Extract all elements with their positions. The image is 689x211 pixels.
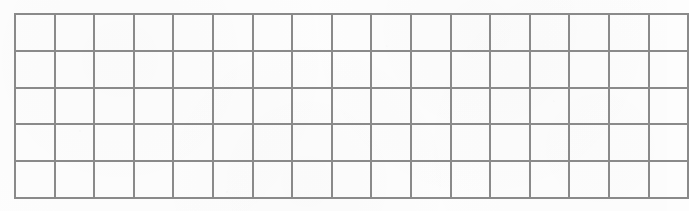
table-cell[interactable] [15,161,55,198]
table-cell[interactable] [411,88,451,125]
table-cell[interactable] [292,14,332,51]
table-cell[interactable] [94,51,134,88]
table-cell[interactable] [173,161,213,198]
table-cell[interactable] [490,124,530,161]
table-cell[interactable] [490,51,530,88]
table-cell[interactable] [213,51,253,88]
table-row [15,88,688,125]
table-cell[interactable] [55,161,95,198]
table-cell[interactable] [55,14,95,51]
table-cell[interactable] [530,124,570,161]
table-cell[interactable] [253,51,293,88]
table-cell[interactable] [213,88,253,125]
table-cell[interactable] [411,161,451,198]
table-cell[interactable] [609,161,649,198]
table-cell[interactable] [292,161,332,198]
table-cell[interactable] [451,161,491,198]
table-cell[interactable] [173,51,213,88]
table-cell[interactable] [371,51,411,88]
table-cell[interactable] [530,161,570,198]
table-cell[interactable] [134,51,174,88]
grid-table-body [15,14,688,198]
table-cell[interactable] [94,14,134,51]
table-cell[interactable] [490,161,530,198]
table-cell[interactable] [649,161,689,198]
table-cell[interactable] [173,124,213,161]
table-cell[interactable] [15,124,55,161]
table-cell[interactable] [490,14,530,51]
table-cell[interactable] [134,161,174,198]
table-cell[interactable] [332,161,372,198]
table-cell[interactable] [451,124,491,161]
table-cell[interactable] [371,88,411,125]
table-cell[interactable] [134,14,174,51]
table-cell[interactable] [609,51,649,88]
table-cell[interactable] [609,124,649,161]
table-cell[interactable] [332,88,372,125]
table-cell[interactable] [569,51,609,88]
table-cell[interactable] [530,88,570,125]
table-cell[interactable] [253,161,293,198]
grid-table [14,13,689,199]
table-cell[interactable] [173,14,213,51]
table-cell[interactable] [332,124,372,161]
table-cell[interactable] [411,51,451,88]
table-cell[interactable] [411,14,451,51]
table-row [15,51,688,88]
table-cell[interactable] [530,14,570,51]
table-cell[interactable] [490,88,530,125]
table-cell[interactable] [530,51,570,88]
table-cell[interactable] [213,14,253,51]
table-cell[interactable] [213,124,253,161]
table-cell[interactable] [649,124,689,161]
table-cell[interactable] [451,14,491,51]
table-cell[interactable] [292,51,332,88]
table-cell[interactable] [569,124,609,161]
table-cell[interactable] [569,88,609,125]
table-cell[interactable] [649,88,689,125]
table-cell[interactable] [371,14,411,51]
table-row [15,124,688,161]
table-cell[interactable] [371,161,411,198]
table-cell[interactable] [569,14,609,51]
table-cell[interactable] [15,88,55,125]
table-row [15,14,688,51]
table-cell[interactable] [94,88,134,125]
table-cell[interactable] [213,161,253,198]
table-cell[interactable] [55,124,95,161]
table-cell[interactable] [371,124,411,161]
table-cell[interactable] [609,88,649,125]
table-cell[interactable] [451,88,491,125]
table-cell[interactable] [134,88,174,125]
table-cell[interactable] [55,88,95,125]
table-cell[interactable] [411,124,451,161]
table-cell[interactable] [134,124,174,161]
table-cell[interactable] [15,51,55,88]
table-cell[interactable] [173,88,213,125]
table-cell[interactable] [332,14,372,51]
table-cell[interactable] [94,124,134,161]
table-cell[interactable] [253,14,293,51]
table-cell[interactable] [292,88,332,125]
table-cell[interactable] [451,51,491,88]
table-cell[interactable] [569,161,609,198]
table-cell[interactable] [609,14,649,51]
table-cell[interactable] [649,51,689,88]
table-cell[interactable] [15,14,55,51]
table-cell[interactable] [649,14,689,51]
table-cell[interactable] [253,124,293,161]
table-cell[interactable] [292,124,332,161]
table-cell[interactable] [55,51,95,88]
table-cell[interactable] [94,161,134,198]
table-cell[interactable] [253,88,293,125]
table-cell[interactable] [332,51,372,88]
table-row [15,161,688,198]
